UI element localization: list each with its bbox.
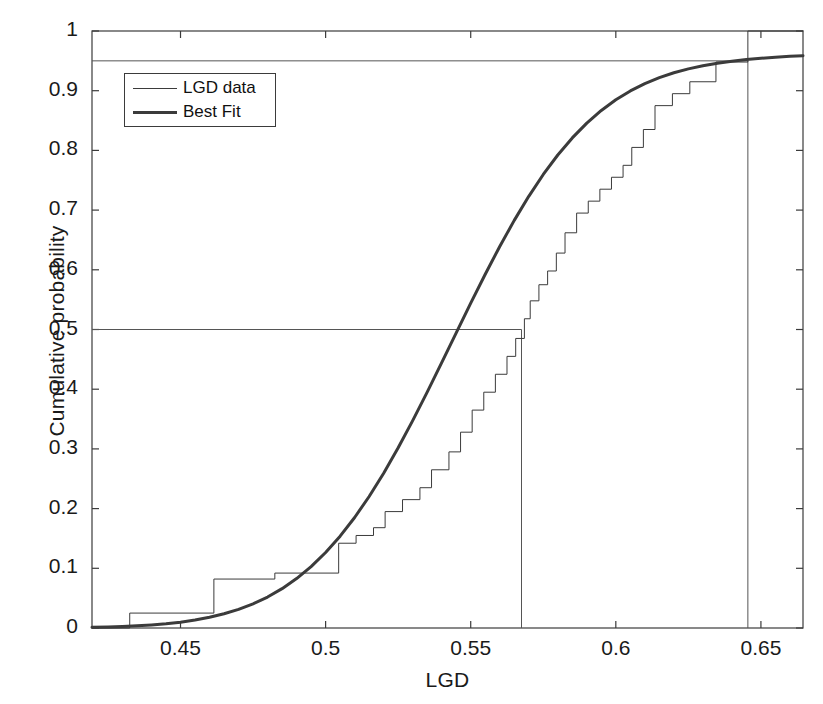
x-tick-label: 0.65 [721, 636, 801, 660]
chart-legend: LGD data Best Fit [124, 73, 276, 127]
legend-entry-best-fit: Best Fit [125, 101, 275, 125]
legend-entry-lgd-data: LGD data [125, 77, 275, 101]
y-tick-label: 0.6 [18, 256, 78, 280]
legend-label: Best Fit [183, 102, 241, 122]
y-tick-label: 0.1 [18, 554, 78, 578]
legend-swatch-line-icon [133, 111, 177, 114]
y-tick-label: 0.2 [18, 495, 78, 519]
x-tick-label: 0.45 [141, 636, 221, 660]
x-axis-label: LGD [92, 668, 803, 692]
legend-swatch-line-icon [133, 88, 177, 89]
y-tick-label: 0.5 [18, 316, 78, 340]
y-tick-label: 0.4 [18, 375, 78, 399]
legend-label: LGD data [183, 78, 256, 98]
x-tick-label: 0.55 [431, 636, 511, 660]
y-tick-label: 0.7 [18, 196, 78, 220]
y-tick-label: 1 [18, 17, 78, 41]
x-tick-label: 0.6 [576, 636, 656, 660]
y-tick-label: 0.8 [18, 136, 78, 160]
chart-figure: Cumulative probability LGD 00.10.20.30.4… [0, 0, 823, 704]
y-tick-label: 0.9 [18, 77, 78, 101]
x-tick-label: 0.5 [286, 636, 366, 660]
series-best-fit [92, 56, 803, 628]
y-tick-label: 0 [18, 614, 78, 638]
y-tick-label: 0.3 [18, 435, 78, 459]
